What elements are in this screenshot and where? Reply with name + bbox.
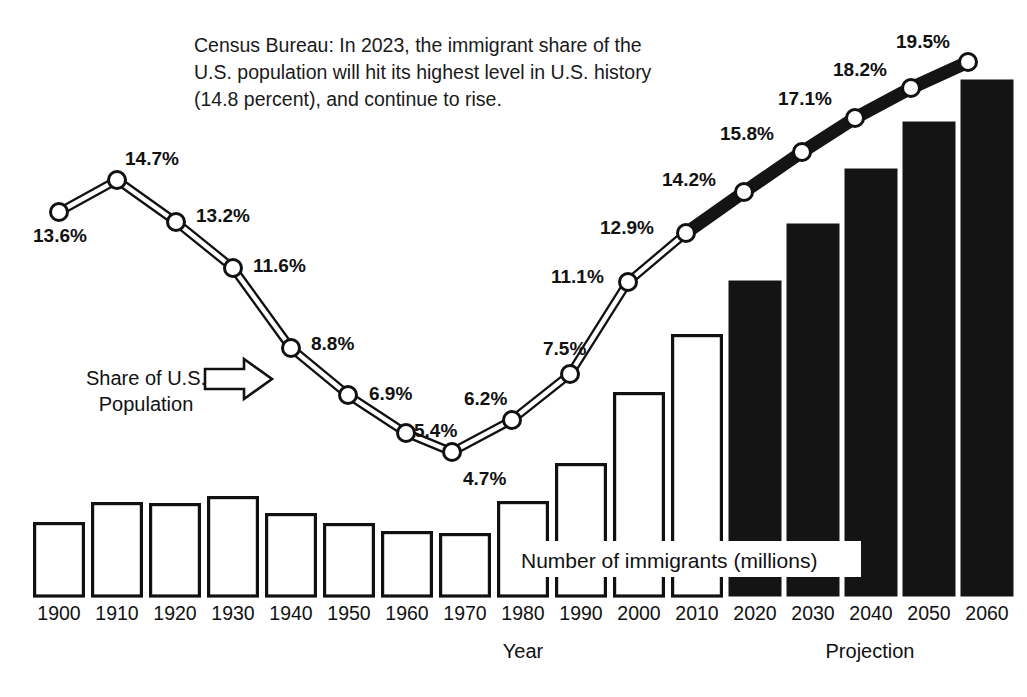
x-tick-1920: 1920 [153, 602, 197, 624]
share-label-2060: 19.5% [896, 31, 950, 52]
share-marker-2060 [960, 54, 977, 71]
annotation-line-3: (14.8 percent), and continue to rise. [194, 88, 502, 110]
x-tick-2060: 2060 [965, 602, 1009, 624]
bar-2040 [845, 169, 897, 596]
bar-2050 [903, 122, 955, 596]
share-label-1900: 13.6% [33, 225, 87, 246]
right-arrow-icon [205, 359, 272, 399]
x-tick-1990: 1990 [559, 602, 603, 624]
x-tick-2030: 2030 [791, 602, 835, 624]
bar-1940 [267, 515, 316, 596]
x-tick-2000: 2000 [617, 602, 661, 624]
x-tick-1950: 1950 [327, 602, 371, 624]
share-label-1960: 5.4% [414, 420, 457, 441]
x-tick-1970: 1970 [443, 602, 487, 624]
x-tick-1980: 1980 [501, 602, 545, 624]
axis-label-projection: Projection [826, 640, 915, 662]
share-marker-1930 [225, 260, 242, 277]
share-label-1970: 4.7% [463, 468, 506, 489]
x-tick-2050: 2050 [907, 602, 951, 624]
axis-label-year: Year [503, 640, 544, 662]
x-tick-1960: 1960 [385, 602, 429, 624]
share-label-2040: 17.1% [778, 88, 832, 109]
share-marker-2040 [847, 110, 864, 127]
share-label-1950: 6.9% [369, 383, 412, 404]
x-tick-1900: 1900 [37, 602, 81, 624]
share-marker-2000 [620, 274, 637, 291]
share-marker-1990 [562, 366, 579, 383]
share-marker-1940 [283, 340, 300, 357]
share-label-1980: 6.2% [464, 388, 507, 409]
share-label-1910: 14.7% [125, 148, 179, 169]
bar-1930 [209, 498, 258, 596]
bar-1910 [93, 504, 142, 596]
immigrant-share-chart: Number of immigrants (millions) 13.6%14.… [0, 0, 1027, 697]
share-label-2010: 12.9% [600, 217, 654, 238]
bars-layer [35, 80, 1013, 596]
share-marker-1910 [109, 172, 126, 189]
x-axis-tick-labels: 1900191019201930194019501960197019801990… [37, 602, 1009, 624]
bars-caption-label: Number of immigrants (millions) [521, 549, 817, 572]
share-label-2000: 11.1% [551, 266, 604, 287]
share-marker-1920 [168, 214, 185, 231]
chart-canvas: Number of immigrants (millions) 13.6%14.… [0, 0, 1027, 697]
share-label-1920: 13.2% [196, 205, 250, 226]
share-marker-2050 [903, 80, 920, 97]
bar-2060 [961, 80, 1013, 596]
share-label-1990: 7.5% [543, 338, 586, 359]
bar-1970 [441, 535, 490, 596]
x-tick-1910: 1910 [95, 602, 139, 624]
x-tick-1930: 1930 [211, 602, 255, 624]
x-tick-1940: 1940 [269, 602, 313, 624]
x-tick-2020: 2020 [733, 602, 777, 624]
share-label-2020: 14.2% [662, 169, 716, 190]
share-label-1930: 11.6% [253, 255, 306, 276]
share-caption-line1: Share of U.S. [86, 367, 206, 389]
share-caption-line2: Population [99, 393, 194, 415]
share-marker-2020 [736, 184, 753, 201]
share-label-2050: 18.2% [833, 59, 887, 80]
bar-1900 [35, 524, 84, 596]
annotation-line-2: U.S. population will hit its highest lev… [194, 61, 652, 83]
share-label-2030: 15.8% [720, 123, 774, 144]
bar-1950 [325, 525, 374, 596]
share-marker-1980 [504, 412, 521, 429]
annotation-line-1: Census Bureau: In 2023, the immigrant sh… [194, 34, 642, 56]
bar-2030 [787, 224, 839, 596]
share-label-1940: 8.8% [311, 333, 354, 354]
share-marker-2010 [678, 225, 695, 242]
share-marker-1900 [51, 204, 68, 221]
x-tick-2010: 2010 [675, 602, 719, 624]
share-marker-2030 [794, 144, 811, 161]
bars-caption-group: Number of immigrants (millions) [513, 541, 861, 577]
bar-1960 [383, 533, 432, 596]
share-marker-1960 [398, 425, 415, 442]
x-tick-2040: 2040 [849, 602, 893, 624]
share-marker-1950 [340, 387, 357, 404]
bar-1920 [151, 505, 200, 596]
share-marker-1970 [444, 444, 461, 461]
